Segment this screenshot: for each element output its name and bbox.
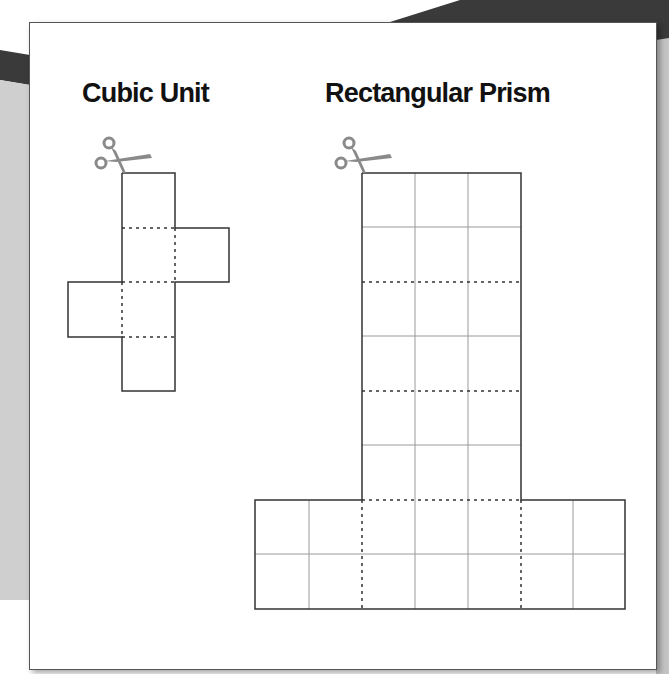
nets-diagram [0,0,669,674]
cube-net [68,173,229,391]
scissors-icon [332,135,394,177]
scissors-icon [92,135,154,177]
rectangular-prism-net [255,173,625,609]
